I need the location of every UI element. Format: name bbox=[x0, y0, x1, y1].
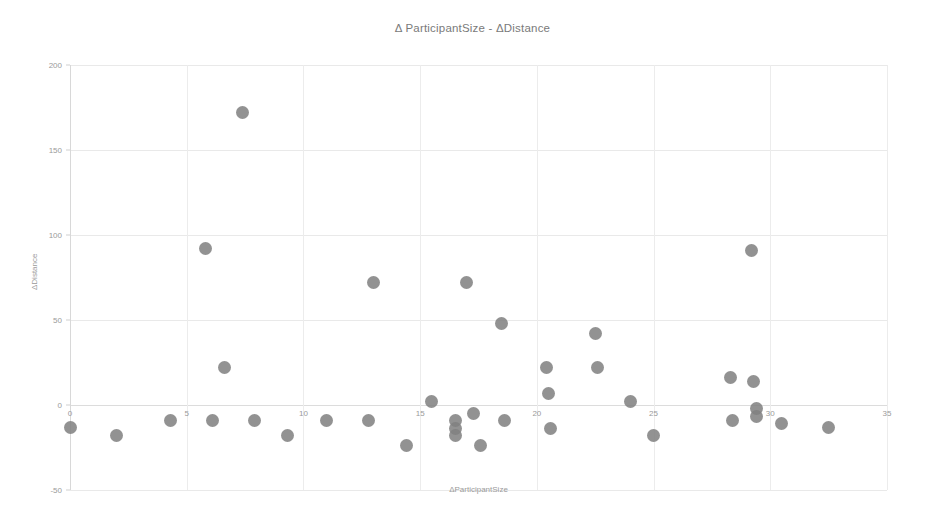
chart-title: Δ ParticipantSize - ΔDistance bbox=[0, 22, 945, 34]
data-point bbox=[775, 417, 788, 430]
data-point bbox=[281, 429, 294, 442]
y-tick-label: 150 bbox=[49, 146, 62, 155]
data-point bbox=[248, 414, 261, 427]
data-point bbox=[467, 407, 480, 420]
data-points bbox=[70, 65, 887, 490]
data-point bbox=[822, 421, 835, 434]
y-tick-label: 50 bbox=[53, 316, 62, 325]
data-point bbox=[474, 439, 487, 452]
data-point bbox=[199, 242, 212, 255]
data-point bbox=[750, 410, 763, 423]
data-point bbox=[747, 375, 760, 388]
x-axis-title: ΔParticipantSize bbox=[70, 485, 887, 494]
data-point bbox=[64, 421, 77, 434]
data-point bbox=[726, 414, 739, 427]
gridline-vertical bbox=[887, 65, 888, 490]
y-axis-title: ΔDistance bbox=[30, 254, 39, 290]
data-point bbox=[542, 387, 555, 400]
data-point bbox=[362, 414, 375, 427]
y-tick-label: 100 bbox=[49, 231, 62, 240]
plot-area: -5005010015020005101520253035 bbox=[70, 65, 887, 490]
data-point bbox=[460, 276, 473, 289]
data-point bbox=[745, 244, 758, 257]
y-tick-label: -50 bbox=[50, 486, 62, 495]
data-point bbox=[110, 429, 123, 442]
scatter-chart: Δ ParticipantSize - ΔDistance -500501001… bbox=[0, 0, 945, 530]
y-tick-label: 0 bbox=[58, 401, 62, 410]
data-point bbox=[206, 414, 219, 427]
data-point bbox=[624, 395, 637, 408]
data-point bbox=[495, 317, 508, 330]
data-point bbox=[400, 439, 413, 452]
data-point bbox=[540, 361, 553, 374]
data-point bbox=[236, 106, 249, 119]
data-point bbox=[589, 327, 602, 340]
data-point bbox=[218, 361, 231, 374]
y-tick-label: 200 bbox=[49, 61, 62, 70]
data-point bbox=[449, 429, 462, 442]
data-point bbox=[544, 422, 557, 435]
data-point bbox=[724, 371, 737, 384]
data-point bbox=[647, 429, 660, 442]
data-point bbox=[591, 361, 604, 374]
data-point bbox=[164, 414, 177, 427]
data-point bbox=[320, 414, 333, 427]
data-point bbox=[425, 395, 438, 408]
data-point bbox=[367, 276, 380, 289]
data-point bbox=[498, 414, 511, 427]
